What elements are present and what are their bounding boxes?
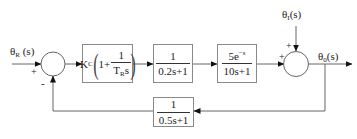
feedback-block: 1 0.5s+1 [153, 97, 194, 127]
actuator-block: 1 0.2s+1 [153, 44, 193, 83]
process-transfer-function: 5e−s 10s+1 [222, 50, 253, 77]
junction-1-minus-sign: - [41, 78, 45, 89]
disturbance-input-label: θI(s) [282, 9, 301, 22]
summing-junction-1 [41, 52, 65, 76]
feedback-transfer-function: 1 0.5s+1 [157, 98, 191, 125]
feedback-line-right [194, 64, 325, 111]
summing-junction-2 [284, 52, 309, 77]
junction-1-plus-sign: + [31, 67, 37, 77]
process-block: 5e−s 10s+1 [217, 44, 257, 83]
junction-2-plus-sign-left: + [279, 52, 285, 62]
controller-transfer-function: KC ( 1+ 1 TRs ) [80, 49, 135, 79]
junction-2-plus-sign-top: + [286, 41, 292, 51]
actuator-transfer-function: 1 0.2s+1 [156, 50, 190, 77]
controller-block: KC ( 1+ 1 TRs ) [82, 44, 133, 83]
reference-input-label: θR (s) [10, 46, 34, 59]
output-label: θ0(s) [318, 51, 338, 64]
